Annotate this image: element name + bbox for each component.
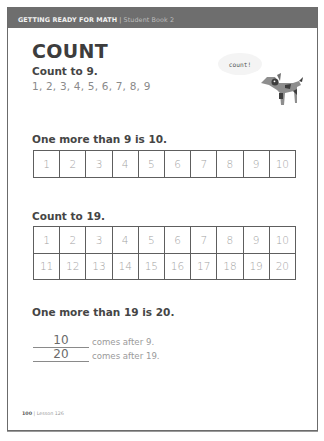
header-bar: GETTING READY FOR MATH | Student Book 2 <box>8 7 317 28</box>
dog-icon <box>257 73 305 111</box>
grid-cell: 1 <box>34 151 60 178</box>
grid-cell: 2 <box>60 227 86 254</box>
answer-blank[interactable]: 20 <box>33 348 89 362</box>
number-grid-1-to-20: 1 2 3 4 5 6 7 8 9 10 11 12 13 14 15 16 1… <box>33 226 296 280</box>
fill-in-text: comes after 19. <box>92 351 160 362</box>
heading-count-to-19: Count to 19. <box>32 210 105 222</box>
heading-one-more-than-19: One more than 19 is 20. <box>32 306 174 318</box>
grid-cell: 11 <box>34 253 60 280</box>
grid-cell: 8 <box>217 151 243 178</box>
grid-cell: 1 <box>34 227 60 254</box>
grid-cell: 17 <box>191 253 217 280</box>
heading-count-to-9: Count to 9. <box>32 65 98 77</box>
grid-cell: 2 <box>60 151 86 178</box>
heading-one-more-than-9: One more than 9 is 10. <box>32 133 167 145</box>
grid-cell: 4 <box>112 151 138 178</box>
number-grid-1-to-10: 1 2 3 4 5 6 7 8 9 10 <box>33 150 296 178</box>
grid-cell: 3 <box>86 151 112 178</box>
grid-cell: 8 <box>217 227 243 254</box>
book-title: Student Book 2 <box>124 16 175 24</box>
grid-cell: 7 <box>191 151 217 178</box>
header-separator: | <box>119 16 121 24</box>
grid-cell: 14 <box>112 253 138 280</box>
workbook-page: GETTING READY FOR MATH | Student Book 2 … <box>7 7 318 431</box>
grid-cell: 10 <box>269 227 295 254</box>
grid-cell: 13 <box>86 253 112 280</box>
grid-cell: 20 <box>269 253 295 280</box>
grid-cell: 9 <box>243 227 269 254</box>
answer-blank[interactable]: 10 <box>33 334 89 348</box>
grid-cell: 6 <box>164 151 190 178</box>
grid-cell: 19 <box>243 253 269 280</box>
page-footer: 100 | Lesson 126 <box>22 411 64 416</box>
grid-cell: 18 <box>217 253 243 280</box>
number-sequence: 1, 2, 3, 4, 5, 6, 7, 8, 9 <box>32 80 151 92</box>
grid-cell: 6 <box>164 227 190 254</box>
footer-separator: | <box>34 411 36 416</box>
grid-cell: 4 <box>112 227 138 254</box>
series-title: GETTING READY FOR MATH <box>18 16 117 24</box>
grid-row: 1 2 3 4 5 6 7 8 9 10 <box>34 227 296 254</box>
lesson-label: Lesson 126 <box>37 411 64 416</box>
grid-cell: 3 <box>86 227 112 254</box>
grid-cell: 9 <box>243 151 269 178</box>
grid-cell: 7 <box>191 227 217 254</box>
grid-cell: 5 <box>138 227 164 254</box>
page-number: 100 <box>22 411 32 416</box>
fill-in-row: 20 comes after 19. <box>33 348 160 362</box>
grid-cell: 16 <box>164 253 190 280</box>
grid-cell: 10 <box>269 151 295 178</box>
grid-row: 11 12 13 14 15 16 17 18 19 20 <box>34 253 296 280</box>
fill-in-row: 10 comes after 9. <box>33 334 154 348</box>
speech-bubble: count! <box>218 53 262 75</box>
grid-cell: 5 <box>138 151 164 178</box>
grid-row: 1 2 3 4 5 6 7 8 9 10 <box>34 151 296 178</box>
speech-text: count! <box>229 61 251 68</box>
page-title: COUNT <box>32 40 108 62</box>
grid-cell: 15 <box>138 253 164 280</box>
grid-cell: 12 <box>60 253 86 280</box>
fill-in-text: comes after 9. <box>92 337 154 348</box>
